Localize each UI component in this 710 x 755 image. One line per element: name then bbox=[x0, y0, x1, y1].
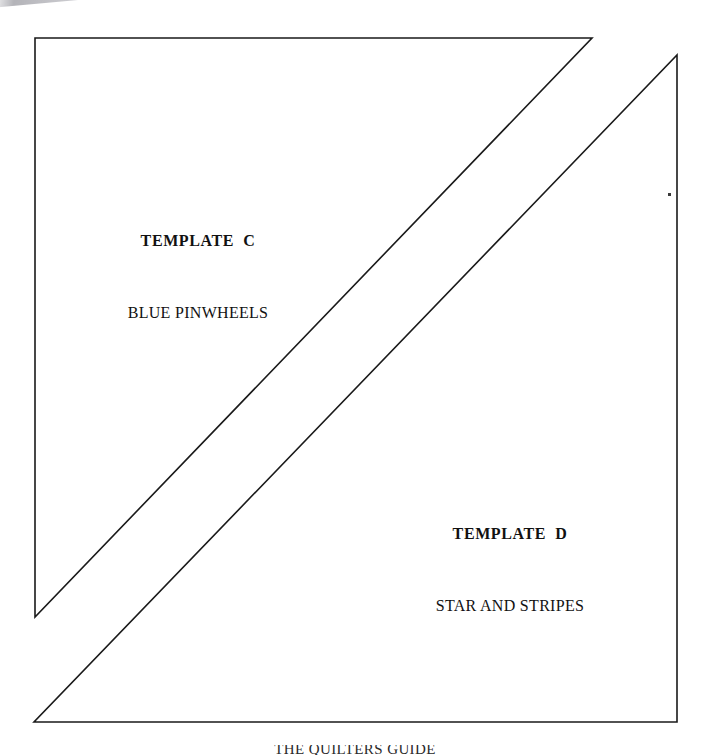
scan-speck-artifact bbox=[668, 193, 671, 196]
bottom-clipped-text: THE QUILTERS GUIDE bbox=[0, 745, 710, 755]
template-d-title: TEMPLATE D bbox=[400, 523, 620, 545]
template-c-pattern-name: BLUE PINWHEELS bbox=[88, 302, 308, 324]
template-d-pattern-name: STAR AND STRIPES bbox=[400, 595, 620, 617]
template-c-title: TEMPLATE C bbox=[88, 230, 308, 252]
template-c-label: TEMPLATE C BLUE PINWHEELS bbox=[88, 194, 308, 359]
template-sheet: TEMPLATE C BLUE PINWHEELS TEMPLATE D STA… bbox=[0, 0, 710, 755]
template-d-label: TEMPLATE D STAR AND STRIPES bbox=[400, 487, 620, 652]
bottom-clipped-text-content: THE QUILTERS GUIDE bbox=[0, 745, 710, 755]
